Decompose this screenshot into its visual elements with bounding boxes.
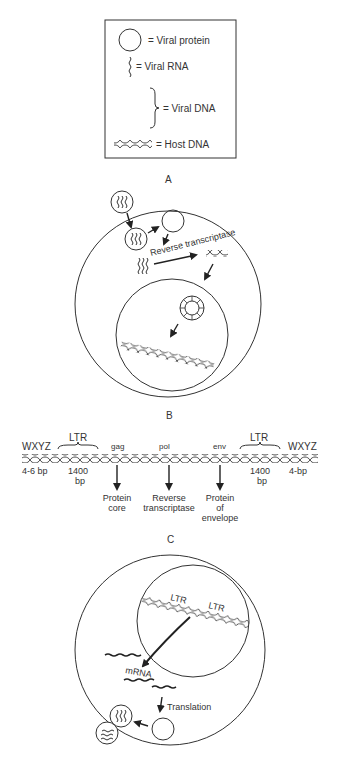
env-product-line3: envelope <box>202 513 239 523</box>
virion-icon <box>125 228 147 250</box>
released-virion-icon <box>96 722 118 744</box>
cell-membrane <box>75 555 265 745</box>
legend: = Viral protein = Viral RNA = Viral DNA … <box>105 20 236 158</box>
viral-rna-icon <box>129 57 131 77</box>
viral-dna-helix <box>206 250 228 257</box>
gag-product-line1: Protein <box>103 493 132 503</box>
right-repeat-size: 4-bp <box>289 466 307 476</box>
legend-label-viral-dna: = Viral DNA <box>163 103 216 114</box>
retrovirus-life-cycle-diagram: = Viral protein = Viral RNA = Viral DNA … <box>0 0 338 776</box>
integrated-provirus-helix <box>141 596 250 629</box>
ltr-right-size-unit: bp <box>257 476 267 486</box>
mrna-label: mRNA <box>125 665 153 679</box>
panel-label-c: C <box>167 534 174 545</box>
panel-c: LTR LTR mRNA Translation <box>75 555 265 745</box>
legend-label-viral-rna: = Viral RNA <box>136 61 189 72</box>
viral-dna-brace-icon <box>150 88 159 128</box>
viral-protein-icon <box>119 29 141 51</box>
env-product-line2: of <box>216 503 224 513</box>
right-repeat-label: WXYZ <box>288 441 317 452</box>
viral-protein-icon <box>162 210 184 232</box>
panel-a: Reverse transcriptase <box>75 191 261 397</box>
gag-product-line2: core <box>108 503 126 513</box>
panel-label-a: A <box>165 174 172 185</box>
ltr-left-size-unit: bp <box>75 476 85 486</box>
viral-rna-icon <box>138 258 148 274</box>
ltr-left-label: LTR <box>69 432 87 443</box>
provirus-dna-helix <box>22 454 318 463</box>
panel-label-b: B <box>166 410 173 421</box>
legend-label-host-dna: = Host DNA <box>156 139 209 150</box>
virion-icon <box>111 191 133 213</box>
translation-label: Translation <box>167 702 211 712</box>
env-product-line1: Protein <box>206 493 235 503</box>
gene-label-pol: pol <box>159 442 170 451</box>
viral-protein-icon <box>152 718 174 740</box>
panel-b-genome-map: WXYZ LTR gag pol env LTR WXYZ 4-6 bp 140… <box>22 432 318 523</box>
pol-product-line2: transcriptase <box>143 503 195 513</box>
ltr-right-label: LTR <box>250 432 268 443</box>
pol-product-line1: Reverse <box>152 493 186 503</box>
legend-label-viral-protein: = Viral protein <box>148 35 210 46</box>
gene-label-env: env <box>213 442 226 451</box>
gene-label-gag: gag <box>111 442 124 451</box>
left-repeat-label: WXYZ <box>22 441 51 452</box>
integrated-host-dna <box>120 341 214 370</box>
host-dna-icon <box>114 140 152 148</box>
circular-viral-dna-icon <box>180 296 204 320</box>
ltr-right-size: 1400 <box>250 466 270 476</box>
left-repeat-size: 4-6 bp <box>22 466 48 476</box>
cell-membrane <box>75 211 261 397</box>
ltr-left-size: 1400 <box>68 466 88 476</box>
